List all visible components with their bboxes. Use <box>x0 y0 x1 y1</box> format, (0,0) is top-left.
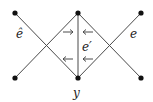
node-top-left <box>12 10 17 15</box>
arrow-lower-left-left-icon <box>63 57 73 62</box>
arrow-upper-right-left-icon <box>83 30 93 35</box>
arrow-upper-left-right-icon <box>63 30 73 35</box>
node-top-middle <box>75 10 80 15</box>
label-e-hat: ê <box>16 27 23 41</box>
label-e-prime: e′ <box>82 40 92 54</box>
node-bottom-left <box>12 75 17 80</box>
arrow-lower-right-left-icon <box>83 57 93 62</box>
label-y: y <box>72 86 80 100</box>
label-e: e <box>130 27 137 41</box>
node-bottom-right <box>138 75 143 80</box>
graph-diagram: ê e e′ y <box>0 0 153 102</box>
node-top-right <box>138 10 143 15</box>
node-bottom-middle <box>75 75 80 80</box>
